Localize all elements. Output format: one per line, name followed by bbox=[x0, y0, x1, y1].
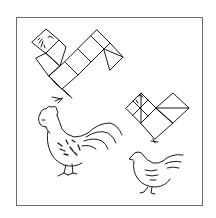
illustration-canvas bbox=[0, 0, 216, 218]
small-tangram-bird bbox=[126, 93, 189, 143]
hen-drawing bbox=[129, 152, 183, 194]
feet-detail bbox=[52, 97, 62, 103]
small-feet-detail bbox=[151, 139, 158, 143]
large-tangram-bird bbox=[32, 29, 123, 103]
head-detail bbox=[38, 36, 53, 48]
rooster-drawing bbox=[39, 106, 123, 176]
